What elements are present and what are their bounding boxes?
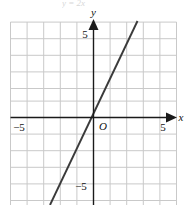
y-tick-label-negative-5: −5 — [75, 180, 87, 192]
x-tick-label-positive-5: 5 — [160, 121, 166, 133]
y-axis-arrow-icon — [89, 19, 99, 30]
x-axis-arrow-icon — [166, 113, 177, 123]
origin-label: O — [99, 120, 107, 132]
y-tick-label-positive-5: 5 — [82, 28, 88, 40]
graph-canvas: x y O −5 5 5 −5 — [0, 0, 192, 205]
x-axis-label: x — [178, 111, 184, 123]
x-tick-label-negative-5: −5 — [13, 121, 25, 133]
cropped-equation-text: y = 2x — [62, 0, 132, 8]
coordinate-plane-figure: y = 2x — [0, 0, 192, 205]
